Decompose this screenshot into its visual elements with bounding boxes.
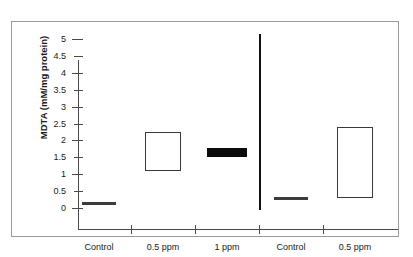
x-tick bbox=[259, 225, 260, 234]
y-tick bbox=[74, 157, 83, 158]
plot-frame: MDTA (mM/mg protein) 00.511.522.533.544.… bbox=[11, 21, 399, 237]
data-mark-open-box bbox=[145, 132, 181, 171]
y-tick bbox=[74, 90, 83, 91]
y-tick-label: 1.5 bbox=[40, 153, 66, 162]
y-tick-label: 3 bbox=[40, 103, 66, 112]
y-tick bbox=[72, 174, 83, 175]
x-tick bbox=[195, 225, 196, 234]
y-tick bbox=[72, 39, 83, 40]
y-tick bbox=[72, 208, 83, 209]
data-mark-open-box bbox=[337, 127, 373, 198]
x-tick-label: Control bbox=[256, 242, 326, 252]
y-tick bbox=[72, 73, 83, 74]
x-tick bbox=[131, 225, 132, 234]
x-tick-label: 1 ppm bbox=[192, 242, 262, 252]
x-tick-label: 0.5 ppm bbox=[128, 242, 198, 252]
chart-figure: MDTA (mM/mg protein) 00.511.522.533.544.… bbox=[0, 0, 413, 257]
y-tick bbox=[74, 124, 83, 125]
data-mark-filled-bar bbox=[207, 148, 247, 157]
y-tick-label: 1 bbox=[40, 170, 66, 179]
y-tick-label: 3.5 bbox=[40, 86, 66, 95]
data-mark-filled-thin bbox=[82, 202, 116, 205]
y-tick-label: 0.5 bbox=[40, 187, 66, 196]
x-tick-label: Control bbox=[64, 242, 134, 252]
y-tick bbox=[72, 107, 83, 108]
y-tick-label: 5 bbox=[40, 35, 66, 44]
x-axis-line bbox=[78, 229, 398, 230]
y-tick bbox=[72, 140, 83, 141]
y-tick-label: 4.5 bbox=[40, 52, 66, 61]
y-tick bbox=[74, 56, 83, 57]
y-tick-label: 2 bbox=[40, 136, 66, 145]
y-axis-line bbox=[78, 60, 79, 230]
y-tick-label: 2.5 bbox=[40, 120, 66, 129]
y-tick bbox=[74, 191, 83, 192]
data-mark-filled-thin bbox=[274, 197, 308, 200]
x-tick bbox=[323, 225, 324, 234]
y-tick-label: 0 bbox=[40, 204, 66, 213]
y-tick-label: 4 bbox=[40, 69, 66, 78]
x-tick-label: 0.5 ppm bbox=[320, 242, 390, 252]
group-separator-line bbox=[259, 34, 261, 210]
